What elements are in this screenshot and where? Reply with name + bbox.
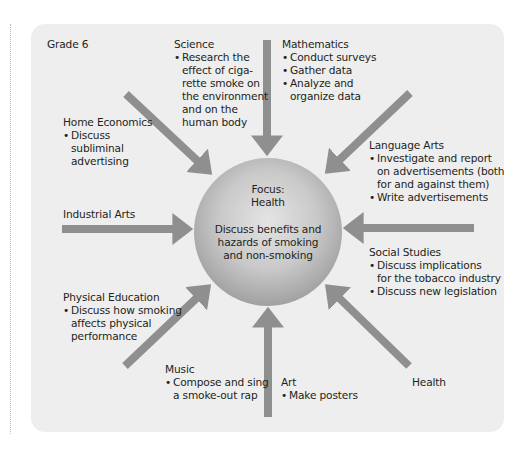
subject-title: Home Economics [63,116,152,129]
subject-title: Industrial Arts [63,208,135,221]
subject-home-economics: Home Economics Discuss subliminal advert… [63,116,152,168]
subject-bullet: Gather data [282,64,376,77]
subject-mathematics: Mathematics Conduct surveys Gather data … [282,38,376,103]
subject-title: Health [412,376,446,389]
subject-science: Science Research the effect of ciga- ret… [174,38,268,129]
subject-title: Science [174,38,268,51]
subject-bullet: Discuss subliminal advertising [63,129,152,168]
subject-title: Music [165,363,269,376]
subject-title: Mathematics [282,38,376,51]
subject-bullet: Make posters [281,389,358,402]
subject-bullet: Analyze and organize data [282,77,376,103]
subject-bullet: Write advertisements [369,191,504,204]
subject-bullet: Conduct surveys [282,51,376,64]
focus-center: Focus: Health Discuss benefits and hazar… [194,159,342,262]
subject-title: Art [281,376,358,389]
focus-label: Focus: Health [194,183,342,209]
subject-physical-education: Physical Education Discuss how smoking a… [63,291,182,343]
subject-social-studies: Social Studies Discuss implications for … [369,246,501,298]
subject-language-arts: Language Arts Investigate and report on … [369,139,504,204]
subject-health: Health [412,376,446,389]
subject-title: Physical Education [63,291,182,304]
subject-music: Music Compose and sing a smoke-out rap [165,363,269,402]
subject-bullet: Investigate and report on advertisements… [369,152,504,191]
focus-description: Discuss benefits and hazards of smoking … [194,223,342,262]
subject-bullet: Research the effect of ciga- rette smoke… [174,51,268,129]
subject-bullet: Discuss new legislation [369,285,501,298]
subject-industrial-arts: Industrial Arts [63,208,135,221]
subject-art: Art Make posters [281,376,358,402]
subject-title: Language Arts [369,139,504,152]
subject-bullet: Discuss how smoking affects physical per… [63,304,182,343]
subject-title: Social Studies [369,246,501,259]
grade-label: Grade 6 [47,38,88,51]
subject-bullet: Discuss implications for the tobacco ind… [369,259,501,285]
subject-bullet: Compose and sing a smoke-out rap [165,376,269,402]
arrow-health [333,292,409,366]
